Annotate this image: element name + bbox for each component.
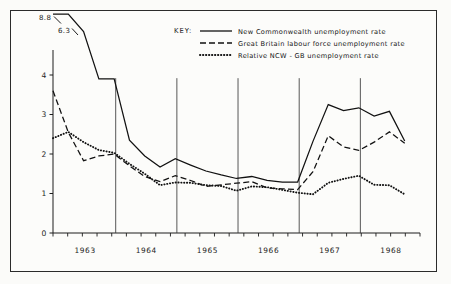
x-tick-label: 1965 — [197, 246, 218, 255]
x-tick-label: 1964 — [136, 246, 157, 255]
y-tick-label: 3 — [42, 110, 47, 119]
annotation-6-3-label: 6.3 — [58, 27, 70, 35]
y-tick-label: 4 — [42, 71, 47, 80]
figure-container: 01234 196319641965196619671968 8.8 6.3 K… — [0, 0, 451, 284]
annotation-6-3-leader — [72, 29, 78, 36]
year-marker-lines — [116, 78, 361, 233]
y-tick-marks — [50, 75, 54, 233]
legend-label-great-britain: Great Britain labour force unemployment … — [238, 40, 405, 48]
axes — [53, 50, 420, 233]
y-tick-label: 1 — [42, 189, 47, 198]
x-tick-labels: 196319641965196619671968 — [75, 246, 402, 255]
series-great-britain-line — [53, 91, 405, 190]
legend-label-new-commonwealth: New Commonwealth unemployment rate — [238, 28, 386, 36]
series-great-britain — [53, 91, 405, 190]
legend: KEY: New Commonwealth unemployment rate … — [174, 27, 405, 60]
series-relative-ncw-gb-line — [53, 132, 405, 194]
series-relative-ncw-gb — [53, 132, 405, 194]
legend-label-relative-ncw-gb: Relative NCW - GB unemployment rate — [238, 52, 379, 60]
y-tick-label: 0 — [42, 229, 47, 238]
x-tick-label: 1963 — [75, 246, 96, 255]
annotation-8-8-label: 8.8 — [39, 14, 51, 22]
x-minor-tick-marks — [53, 233, 420, 237]
y-tick-labels: 01234 — [42, 71, 47, 238]
offscale-annotations: 8.8 6.3 — [39, 14, 78, 35]
x-tick-label: 1967 — [319, 246, 340, 255]
legend-heading: KEY: — [174, 27, 192, 35]
line-chart: 01234 196319641965196619671968 8.8 6.3 K… — [0, 0, 451, 284]
x-tick-label: 1968 — [380, 246, 401, 255]
x-tick-label: 1966 — [258, 246, 279, 255]
annotation-8-8-leader — [54, 17, 61, 24]
y-tick-label: 2 — [42, 150, 47, 159]
